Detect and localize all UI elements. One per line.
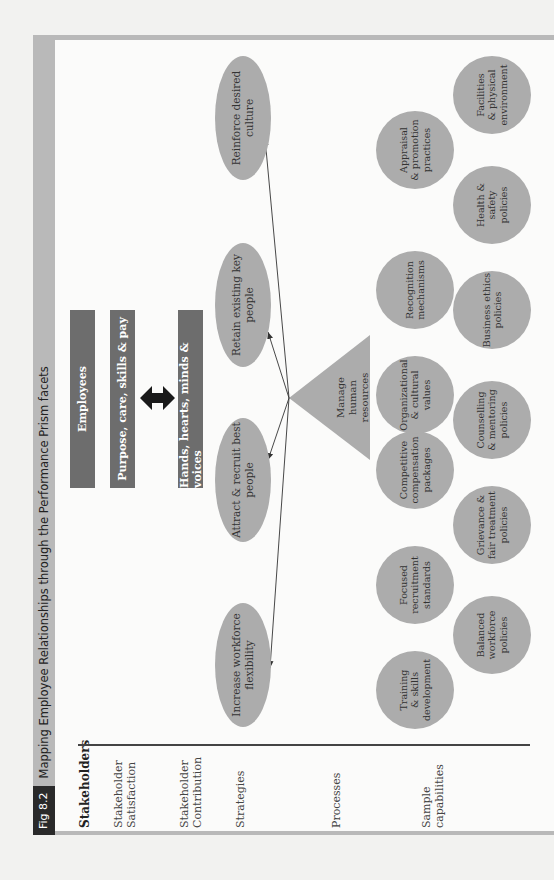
capability-circle: Organizational & cultural values	[376, 356, 454, 434]
strategy-ellipse: Attract & recruit best people	[215, 418, 271, 542]
capability-circle: Focused recruitment standards	[376, 546, 454, 624]
capability-circle: Grievance & fair treatment policies	[453, 486, 531, 564]
capability-circle: Appraisal & promotion practices	[376, 111, 454, 189]
capability-circle: Facilities & physical environment	[453, 56, 531, 134]
capability-circle: Training & skills development	[376, 651, 454, 729]
capability-circle: Recognition mechanisms	[376, 251, 454, 329]
strategy-ellipse: Reinforce desired culture	[215, 56, 271, 180]
capability-circle: Competitive compensation packages	[376, 431, 454, 509]
rotated-page: Fig 8.2 Mapping Employee Relationships t…	[0, 0, 554, 880]
capability-circle: Health & safety policies	[453, 166, 531, 244]
capability-circle: Counselling & mentoring policies	[453, 381, 531, 459]
strategy-ellipse: Increase workforce flexibility	[215, 603, 271, 727]
double-arrow-icon	[140, 386, 175, 410]
capability-circle: Business ethics policies	[453, 271, 531, 349]
capability-circle: Balanced workforce policies	[453, 596, 531, 674]
strategy-ellipse: Retain existing key people	[215, 243, 271, 367]
process-label: Manage human resources	[335, 360, 371, 435]
